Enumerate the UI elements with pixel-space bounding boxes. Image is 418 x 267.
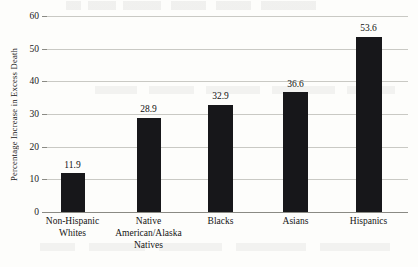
bar-group: 36.6 xyxy=(283,16,308,212)
y-axis-tick xyxy=(42,81,47,82)
bar-value-label: 28.9 xyxy=(140,105,157,115)
y-axis-tick-label: 20 xyxy=(30,142,40,152)
bar-group: 53.6 xyxy=(356,16,382,212)
y-axis-tick-label: 30 xyxy=(30,109,40,119)
bar-value-label: 11.9 xyxy=(64,161,80,171)
bar[interactable] xyxy=(208,105,233,212)
x-axis-category-label: Hispanics xyxy=(309,215,418,227)
y-axis-tick xyxy=(42,49,47,50)
y-axis-tick xyxy=(42,179,47,180)
y-axis-title: Percentage Increase in Excess Death xyxy=(9,16,19,212)
bar-value-label: 53.6 xyxy=(360,24,377,34)
bar-value-label: 32.9 xyxy=(212,92,229,102)
y-axis-title-label: Percentage Increase in Excess Death xyxy=(9,48,19,181)
x-axis-baseline xyxy=(47,212,408,213)
bar[interactable] xyxy=(356,37,382,212)
y-axis-tick-label: 60 xyxy=(30,11,40,21)
bar[interactable] xyxy=(283,92,308,212)
y-axis-tick-label: 40 xyxy=(30,76,40,86)
bar-value-label: 36.6 xyxy=(287,80,304,90)
bar-group: 28.9 xyxy=(137,16,161,212)
y-axis-tick xyxy=(42,114,47,115)
bar[interactable] xyxy=(137,118,161,212)
plot-area: 0102030405060 11.928.932.936.653.6 xyxy=(47,16,408,212)
category-label-line: Natives xyxy=(89,239,209,251)
y-axis-tick xyxy=(42,147,47,148)
scan-bleed-top xyxy=(66,1,316,10)
bar-group: 11.9 xyxy=(61,16,85,212)
bar[interactable] xyxy=(61,173,85,212)
y-axis-tick-label: 10 xyxy=(30,174,40,184)
y-axis-tick xyxy=(42,212,47,213)
y-axis-tick-label: 50 xyxy=(30,44,40,54)
category-label-line: Hispanics xyxy=(309,215,418,227)
bar-group: 32.9 xyxy=(208,16,233,212)
y-axis-tick xyxy=(42,16,47,17)
bar-chart-figure: Percentage Increase in Excess Death 0102… xyxy=(0,0,418,267)
category-label-line: American/Alaska xyxy=(89,227,209,239)
